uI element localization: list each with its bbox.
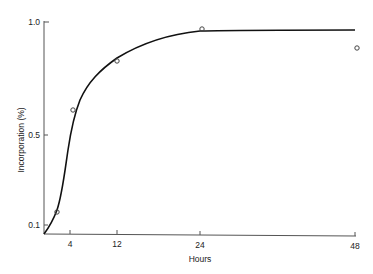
y-tick-label: 0.1 bbox=[28, 220, 40, 230]
data-point bbox=[115, 59, 119, 63]
x-axis-title: Hours bbox=[189, 254, 212, 264]
y-tick-label: 1.0 bbox=[28, 17, 40, 27]
data-point bbox=[355, 46, 359, 50]
x-ticks: 4 12 24 48 bbox=[68, 230, 360, 251]
chart: 1.0 0.5 0.1 4 12 24 48 Hours Incorporati… bbox=[0, 0, 373, 274]
fitted-curve bbox=[44, 30, 355, 234]
x-tick-label: 48 bbox=[350, 241, 360, 251]
y-axis-title: Incorporation (%) bbox=[16, 107, 26, 172]
data-points bbox=[55, 27, 359, 214]
x-tick-label: 24 bbox=[195, 240, 205, 250]
y-ticks: 1.0 0.5 0.1 bbox=[28, 17, 49, 230]
y-tick-label: 0.5 bbox=[28, 130, 40, 140]
data-point bbox=[71, 108, 75, 112]
x-tick-label: 4 bbox=[68, 239, 73, 249]
x-tick-label: 12 bbox=[112, 239, 122, 249]
